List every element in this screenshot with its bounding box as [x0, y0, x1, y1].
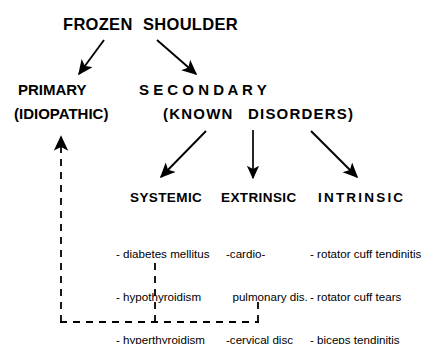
- arrow-frozen-to-primary: [79, 40, 104, 74]
- list-item: - diabetes mellitus: [116, 247, 209, 261]
- node-primary-sublabel: (IDIOPATHIC): [14, 106, 108, 121]
- list-item: - hypothyroidism: [116, 290, 209, 304]
- arrow-secondary-to-systemic: [161, 131, 206, 177]
- arrow-shoulder-to-secondary: [157, 40, 196, 74]
- list-item: - hyperthyroidism: [116, 333, 209, 344]
- list-item: pulmonary dis.: [226, 290, 308, 304]
- category-heading-intrinsic: INTRINSIC: [318, 191, 405, 205]
- list-item: - biceps tendinitis: [310, 333, 421, 344]
- arrow-secondary-to-intrinsic: [311, 131, 357, 177]
- title-word-frozen: FROZEN: [63, 16, 133, 33]
- list-item: - rotator cuff tears: [310, 290, 421, 304]
- title-word-shoulder: SHOULDER: [143, 16, 238, 33]
- node-secondary-label: S E C O N D A R Y: [139, 82, 267, 97]
- frozen-shoulder-classification-diagram: FROZEN SHOULDER PRIMARY (IDIOPATHIC) S E…: [0, 0, 442, 344]
- category-items-extrinsic: -cardio- pulmonary dis. -cervical disc -…: [226, 219, 308, 344]
- category-heading-extrinsic: EXTRINSIC: [221, 191, 297, 205]
- node-primary-label: PRIMARY: [18, 82, 87, 97]
- list-item: -cervical disc: [226, 333, 308, 344]
- category-items-systemic: - diabetes mellitus - hypothyroidism - h…: [116, 219, 209, 344]
- node-secondary-sublabel-known: (KNOWN: [163, 106, 234, 121]
- category-heading-systemic: SYSTEMIC: [130, 191, 202, 205]
- list-item: - rotator cuff tendinitis: [310, 247, 421, 261]
- category-items-intrinsic: - rotator cuff tendinitis - rotator cuff…: [310, 219, 421, 344]
- list-item: -cardio-: [226, 247, 308, 261]
- node-secondary-sublabel-disorders: DISORDERS): [248, 106, 354, 121]
